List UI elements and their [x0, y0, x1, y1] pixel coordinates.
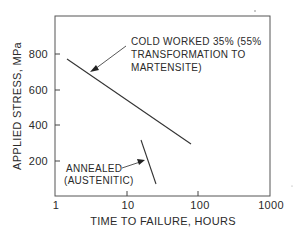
annotation-line: COLD WORKED 35% (55% [131, 36, 261, 47]
y-axis-title: APPLIED STRESS, MPa [11, 41, 23, 170]
scan-speck [291, 185, 292, 186]
annotation-line: MARTENSITE) [131, 62, 202, 73]
arrow-head-icon [137, 159, 145, 165]
cold-worked-annotation: COLD WORKED 35% (55% TRANSFORMATION TO M… [90, 36, 261, 73]
scan-speck [254, 10, 255, 11]
x-tick-label: 1 [53, 199, 59, 211]
y-tick-label: 200 [29, 155, 48, 167]
x-tick-label: 10 [122, 199, 135, 211]
y-tick-labels: 800 600 400 200 [29, 48, 48, 167]
annotation-line: TRANSFORMATION TO [131, 49, 246, 60]
annotation-line: ANNEALED [66, 163, 122, 174]
y-tick-label: 400 [29, 119, 48, 131]
arrow-head-icon [90, 65, 99, 72]
x-tick-label: 100 [190, 199, 209, 211]
arrow-shaft [95, 46, 126, 69]
x-axis-title: TIME TO FAILURE, HOURS [90, 215, 236, 227]
annealed-annotation: ANNEALED (AUSTENITIC) [64, 159, 145, 186]
x-tick-labels: 1 10 100 1000 [53, 199, 284, 211]
annotation-line: (AUSTENITIC) [64, 175, 134, 186]
y-axis-ticks [55, 54, 60, 161]
annealed-line [141, 140, 156, 184]
x-axis-ticks [127, 191, 198, 196]
x-tick-label: 1000 [258, 199, 284, 211]
arrow-shaft [122, 162, 140, 168]
stress-rupture-chart: 800 600 400 200 1 10 100 1000 TIME TO FA… [0, 0, 295, 236]
y-tick-label: 800 [29, 48, 48, 60]
y-tick-label: 600 [29, 84, 48, 96]
